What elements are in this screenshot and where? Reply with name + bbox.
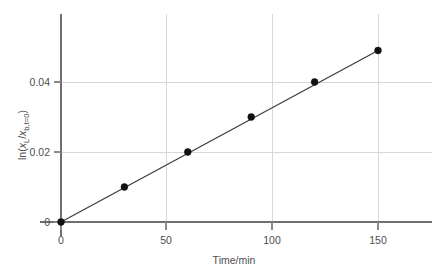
x-tick-label-150: 150	[369, 234, 387, 246]
x-tick-label-0: 0	[58, 234, 64, 246]
y-axis-title-prefix: ln(	[16, 148, 28, 160]
data-point-marker	[248, 114, 255, 121]
x-tick-label-100: 100	[263, 234, 281, 246]
y-tick-label-0.04: 0.04	[30, 76, 51, 88]
y-tick-label-0.02: 0.02	[30, 146, 51, 158]
data-point-marker	[375, 47, 382, 54]
data-point-marker	[311, 79, 318, 86]
data-point-marker	[58, 219, 65, 226]
x-tick-label-50: 50	[160, 234, 172, 246]
y-axis-title-den-sub: b,t=0	[22, 114, 31, 131]
data-point-marker	[121, 184, 128, 191]
y-axis-title-suffix: )	[16, 110, 28, 114]
data-point-marker	[184, 149, 191, 156]
chart-svg: 0.04 0.02 0 0 50 100 150 Time/min ln(xL/…	[0, 0, 440, 273]
y-tick-label-0: 0	[44, 216, 50, 228]
chart-figure: 0.04 0.02 0 0 50 100 150 Time/min ln(xL/…	[0, 0, 440, 273]
x-axis-title: Time/min	[213, 254, 256, 266]
